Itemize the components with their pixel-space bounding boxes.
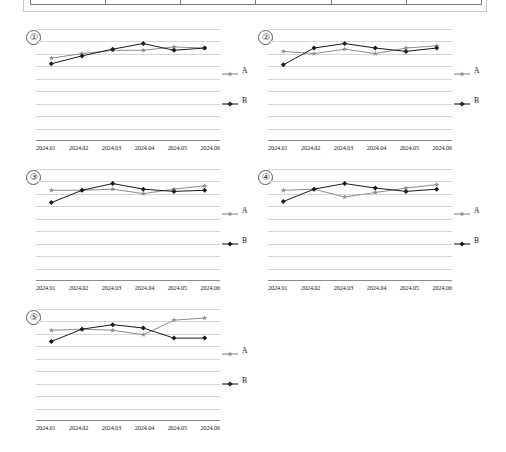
- table-cell: [256, 0, 331, 5]
- star-marker-icon: [342, 47, 347, 52]
- star-marker-icon: [312, 51, 317, 56]
- diamond-marker-icon: [434, 187, 439, 192]
- star-marker-icon: [454, 65, 470, 75]
- diamond-marker-icon: [49, 339, 54, 344]
- chart-panel-1: ①2024.012024.022024.032024.042024.052024…: [24, 28, 267, 176]
- table-row: [31, 0, 482, 5]
- x-axis-tick-label: 2024.03: [102, 424, 121, 431]
- diamond-marker-icon: [110, 181, 115, 186]
- chart-legend: AB: [222, 340, 264, 400]
- x-axis-tick-label: 2024.02: [301, 284, 320, 291]
- star-marker-icon: [373, 190, 378, 195]
- x-axis-tick-label: 2024.04: [135, 424, 154, 431]
- x-axis-tick-label: 2024.02: [69, 284, 88, 291]
- legend-label: A: [242, 346, 247, 355]
- star-marker-icon: [281, 188, 286, 193]
- legend-item-b[interactable]: B: [454, 230, 496, 250]
- diamond-marker-icon: [172, 48, 177, 53]
- x-axis-tick-label: 2024.05: [168, 284, 187, 291]
- star-marker-icon: [434, 182, 439, 187]
- diamond-marker-icon: [404, 49, 409, 54]
- chart-panel-2: ②2024.012024.022024.032024.042024.052024…: [256, 28, 499, 176]
- x-axis-tick-label: 2024.01: [36, 284, 55, 291]
- cut-off-data-table: [23, 0, 487, 12]
- diamond-marker-icon: [312, 46, 317, 51]
- table-cell: [106, 0, 181, 5]
- x-axis-tick-label: 2024.03: [334, 144, 353, 151]
- x-axis-labels: 2024.012024.022024.032024.042024.052024.…: [36, 284, 220, 291]
- star-marker-icon: [460, 71, 465, 76]
- series-layer: [36, 29, 220, 141]
- x-axis-tick-label: 2024.04: [135, 144, 154, 151]
- table-row: [30, 0, 482, 5]
- table-cell: [406, 0, 481, 5]
- star-marker-icon: [228, 71, 233, 76]
- x-axis-tick-label: 2024.01: [36, 424, 55, 431]
- diamond-marker-icon: [49, 61, 54, 66]
- x-axis-tick-label: 2024.02: [69, 144, 88, 151]
- x-axis-tick-label: 2024.03: [102, 284, 121, 291]
- series-line-a: [51, 47, 204, 58]
- series-line-b: [51, 44, 204, 64]
- star-marker-icon: [172, 318, 177, 323]
- x-axis-tick-label: 2024.01: [268, 284, 287, 291]
- star-marker-icon: [49, 56, 54, 61]
- diamond-marker-icon: [342, 181, 347, 186]
- diamond-marker-icon: [460, 242, 465, 247]
- diamond-marker-icon: [80, 327, 85, 332]
- star-marker-icon: [222, 345, 238, 355]
- diamond-marker-icon: [222, 235, 238, 245]
- legend-label: A: [242, 206, 247, 215]
- diamond-marker-icon: [49, 200, 54, 205]
- legend-item-b[interactable]: B: [454, 90, 496, 110]
- x-axis-tick-label: 2024.02: [301, 144, 320, 151]
- star-marker-icon: [281, 49, 286, 54]
- x-axis-tick-label: 2024.02: [69, 424, 88, 431]
- diamond-marker-icon: [228, 382, 233, 387]
- diamond-marker-icon: [404, 189, 409, 194]
- diamond-marker-icon: [281, 199, 286, 204]
- legend-item-a[interactable]: A: [222, 340, 264, 360]
- x-axis-tick-label: 2024.06: [201, 144, 220, 151]
- diamond-marker-icon: [373, 46, 378, 51]
- chart-panel-3: ③2024.012024.022024.032024.042024.052024…: [24, 168, 267, 316]
- diamond-marker-icon: [281, 62, 286, 67]
- legend-label: B: [474, 236, 479, 245]
- diamond-marker-icon: [373, 186, 378, 191]
- diamond-marker-icon: [454, 95, 470, 105]
- star-marker-icon: [454, 205, 470, 215]
- diamond-marker-icon: [141, 187, 146, 192]
- legend-item-a[interactable]: A: [454, 60, 496, 80]
- series-layer: [36, 309, 220, 421]
- x-axis-labels: 2024.012024.022024.032024.042024.052024.…: [268, 284, 452, 291]
- legend-item-a[interactable]: A: [454, 200, 496, 220]
- diamond-marker-icon: [228, 102, 233, 107]
- star-marker-icon: [110, 187, 115, 192]
- x-axis-tick-label: 2024.05: [168, 144, 187, 151]
- x-axis-tick-label: 2024.06: [433, 144, 452, 151]
- diamond-marker-icon: [202, 336, 207, 341]
- plot-area: [268, 169, 452, 281]
- plot-area: [36, 169, 220, 281]
- x-axis-tick-label: 2024.06: [433, 284, 452, 291]
- diamond-marker-icon: [141, 326, 146, 331]
- legend-label: B: [242, 376, 247, 385]
- table-cell: [31, 0, 106, 5]
- diamond-marker-icon: [312, 187, 317, 192]
- x-axis-tick-label: 2024.06: [201, 424, 220, 431]
- x-axis-tick-label: 2024.03: [102, 144, 121, 151]
- star-marker-icon: [110, 328, 115, 333]
- table-cell: [181, 0, 256, 5]
- x-axis-labels: 2024.012024.022024.032024.042024.052024.…: [36, 144, 220, 151]
- star-marker-icon: [141, 332, 146, 337]
- x-axis-tick-label: 2024.05: [400, 284, 419, 291]
- series-line-b: [283, 184, 436, 202]
- legend-label: B: [474, 96, 479, 105]
- diamond-marker-icon: [342, 41, 347, 46]
- diamond-marker-icon: [172, 336, 177, 341]
- series-layer: [268, 169, 452, 281]
- x-axis-tick-label: 2024.01: [268, 144, 287, 151]
- legend-item-b[interactable]: B: [222, 370, 264, 390]
- x-axis-labels: 2024.012024.022024.032024.042024.052024.…: [268, 144, 452, 151]
- chart-panel-5: ⑤2024.012024.022024.032024.042024.052024…: [24, 308, 267, 452]
